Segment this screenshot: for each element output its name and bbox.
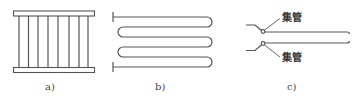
panel-c-label: c) bbox=[287, 82, 297, 92]
bottom-header-bar bbox=[14, 68, 95, 73]
upper-header-circle bbox=[261, 30, 265, 34]
panel-a-label: a) bbox=[45, 82, 55, 92]
serpentine-path bbox=[113, 17, 212, 67]
upper-leader-line bbox=[265, 19, 281, 31]
panel-b-label: b) bbox=[155, 82, 165, 92]
upper-header-annotation: 集管 bbox=[282, 13, 302, 23]
top-header-bar bbox=[14, 11, 95, 16]
upper-tube bbox=[246, 25, 262, 31]
panel-a-parallel-tubes bbox=[14, 11, 95, 73]
lower-header-annotation: 集管 bbox=[282, 53, 302, 63]
lower-leader-line bbox=[265, 45, 281, 57]
upper-pipe bbox=[265, 32, 350, 34]
lower-pipe bbox=[265, 41, 350, 43]
lower-header-circle bbox=[261, 42, 265, 46]
vertical-tubes bbox=[19, 16, 88, 67]
lower-tube bbox=[246, 45, 262, 51]
panel-b-serpentine-coil bbox=[113, 12, 212, 72]
